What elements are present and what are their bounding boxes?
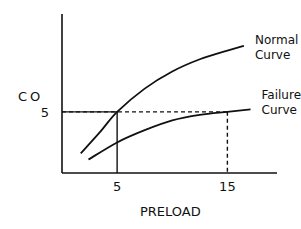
failure-curve-label: Failure: [262, 88, 301, 102]
y-axis-label: CO: [18, 89, 43, 104]
x-tick-label: 5: [113, 179, 121, 194]
y-tick-label: 5: [41, 105, 49, 120]
series-group: [81, 46, 251, 160]
normal-curve-label: Normal: [255, 33, 298, 47]
x-axis-label: PRELOAD: [140, 204, 201, 219]
x-tick-label: 15: [219, 179, 236, 194]
normal-curve-label: Curve: [255, 48, 290, 62]
tick-labels: 5155: [41, 105, 236, 194]
curve-labels: NormalCurveFailureCurve: [255, 33, 301, 118]
failure-curve-label: Curve: [262, 103, 297, 117]
axes: [62, 14, 277, 173]
normal-curve-line: [81, 46, 244, 154]
reference-lines: [62, 112, 227, 173]
chart: 5155 CO PRELOAD NormalCurveFailureCurve: [0, 0, 301, 229]
